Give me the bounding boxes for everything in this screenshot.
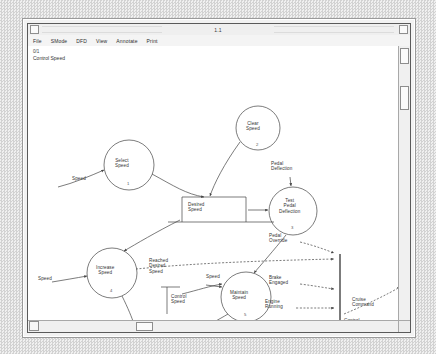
- flow-increase-speed-throttle-position: [122, 296, 134, 321]
- window-title: 1.1: [162, 27, 274, 33]
- vertical-scrollbar-thumb-upper[interactable]: [400, 48, 409, 64]
- dfd-graphics: 1 2 3 4 5: [28, 46, 398, 321]
- process-maintain-speed-label[interactable]: Maintain Speed: [230, 290, 248, 301]
- window-client-area: 1.1 File SMode DFD View Annotate Print 0…: [27, 23, 411, 333]
- flow-desired-speed-to-increase-speed: [124, 220, 180, 251]
- process-maintain-speed-number: 5: [244, 312, 247, 317]
- menu-item-file[interactable]: File: [32, 38, 43, 44]
- flow-label-pedal-override[interactable]: Pedal Override: [269, 233, 287, 244]
- process-increase-speed-label[interactable]: Increase Speed: [96, 265, 114, 276]
- horizontal-scrollbar-thumb[interactable]: [136, 322, 153, 331]
- window-menu-button[interactable]: [30, 25, 39, 34]
- process-test-pedal-deflection-label[interactable]: Test Pedal Deflection: [279, 198, 300, 214]
- process-increase-speed-number: 4: [110, 288, 113, 293]
- menu-item-dfd[interactable]: DFD: [75, 38, 88, 44]
- store-control-speed-label[interactable]: Control Speed: [171, 294, 187, 305]
- window-maximize-button[interactable]: [399, 25, 408, 34]
- process-test-pedal-deflection-number: 3: [291, 225, 294, 230]
- process-select-speed-label[interactable]: Select Speed: [115, 158, 129, 169]
- flow-select-speed-to-desired-speed: [152, 174, 204, 197]
- flow-clear-speed-to-desired-speed: [210, 142, 240, 196]
- flow-brake-engaged: [300, 284, 334, 289]
- menu-item-annotate[interactable]: Annotate: [115, 38, 138, 44]
- title-bar-left-rule: [42, 26, 162, 33]
- flow-label-brake-engaged[interactable]: Brake Engaged: [269, 275, 288, 286]
- flow-label-speed-2[interactable]: Speed: [38, 276, 52, 281]
- menu-item-view[interactable]: View: [95, 38, 108, 44]
- horizontal-scrollbar[interactable]: [28, 320, 399, 332]
- flow-label-speed-3[interactable]: Speed: [206, 274, 220, 279]
- title-bar-right-rule: [274, 26, 394, 33]
- flow-label-pedal-deflection[interactable]: Pedal Deflection: [271, 161, 292, 172]
- store-desired-speed-label[interactable]: Desired Speed: [188, 202, 205, 213]
- diagram-canvas[interactable]: 0/1 Control Speed: [28, 46, 399, 321]
- menu-item-smode[interactable]: SMode: [50, 38, 69, 44]
- process-clear-speed-label[interactable]: Clear Speed: [246, 121, 260, 132]
- process-select-speed-number: 1: [127, 181, 130, 186]
- vertical-scrollbar[interactable]: [398, 46, 410, 321]
- vertical-scrollbar-thumb[interactable]: [400, 86, 409, 110]
- flow-label-engine-running[interactable]: Engine Running: [265, 299, 283, 310]
- menu-item-print[interactable]: Print: [146, 38, 159, 44]
- flow-control-speed-to-maintain-speed: [182, 284, 222, 294]
- flow-pedal-deflection-to-test: [290, 177, 291, 186]
- process-clear-speed-number: 2: [256, 142, 259, 147]
- flow-label-reached-desired-speed[interactable]: Reached Desired Speed: [149, 258, 168, 274]
- flow-speed-to-increase-speed: [52, 276, 87, 282]
- flow-pedal-override: [300, 242, 334, 253]
- flow-label-speed-1[interactable]: Speed: [72, 176, 86, 181]
- scrollbar-corner: [398, 320, 410, 332]
- application-window: 1.1 File SMode DFD View Annotate Print 0…: [22, 18, 416, 338]
- flow-label-cruise-command[interactable]: Cruise Command: [352, 297, 374, 308]
- resize-grip[interactable]: [29, 321, 39, 331]
